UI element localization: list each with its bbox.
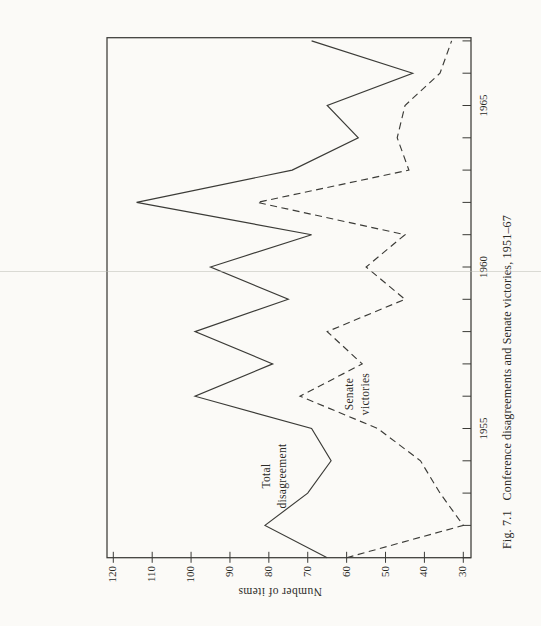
- y-axis-tick-label: 80: [262, 566, 274, 610]
- rotated-figure-container: Number of items Total disagreement Senat…: [0, 0, 541, 626]
- series-label-total-disagreement: Total disagreement: [259, 444, 290, 509]
- y-axis-tick-label: 100: [184, 566, 196, 610]
- y-axis-tick-label: 50: [379, 566, 391, 610]
- figure-caption-number: Fig. 7.1: [500, 510, 514, 549]
- figure-caption-text: Conference disagreements and Senate vict…: [500, 215, 514, 500]
- y-axis-tick-label: 70: [301, 566, 313, 610]
- y-axis-tick-label: 40: [417, 566, 429, 610]
- series-label-senate-line2: victories: [358, 373, 370, 415]
- y-axis-tick-label: 90: [223, 566, 235, 610]
- series-label-total-line1: Total: [260, 464, 272, 489]
- series-label-senate-victories: Senate victories: [342, 373, 373, 415]
- chart-canvas: [0, 0, 541, 626]
- y-axis-tick-label: 110: [145, 566, 157, 610]
- y-axis-tick-label: 30: [456, 566, 468, 610]
- series-label-total-line2: disagreement: [275, 444, 287, 509]
- scanned-book-page: Number of items Total disagreement Senat…: [0, 0, 541, 626]
- y-axis-tick-label: 60: [340, 566, 352, 610]
- figure-caption: Fig. 7.1Conference disagreements and Sen…: [500, 215, 515, 549]
- x-axis-tick-label: 1965: [477, 84, 489, 128]
- scan-fold-artifact-line: [0, 271, 541, 272]
- y-axis-tick-label: 120: [106, 566, 118, 610]
- x-axis-tick-label: 1955: [477, 407, 489, 451]
- series-label-senate-line1: Senate: [343, 378, 355, 410]
- x-axis-tick-label: 1960: [477, 245, 489, 289]
